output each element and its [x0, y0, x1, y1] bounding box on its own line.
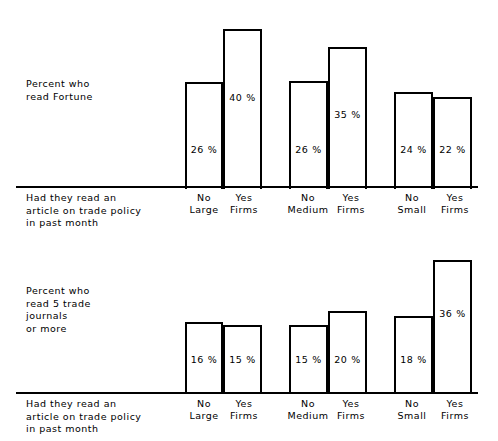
cat-label-top-small-no: No Small: [389, 192, 435, 216]
cat-label-top-small-yes: Yes Firms: [433, 192, 477, 216]
bar-bottom-small-yes: 36 %: [433, 260, 472, 393]
bar-top-large-yes: 40 %: [223, 29, 262, 189]
bar-value-bottom-small-yes: 36 %: [435, 308, 470, 319]
cat-label-bottom-large-no-line1: No: [181, 398, 227, 410]
panel-fortune-readership: Percent who read Fortune 26 % 40 % 26 % …: [0, 0, 498, 232]
cat-label-top-large-no-line1: No: [181, 192, 227, 204]
bar-value-bottom-large-yes: 15 %: [225, 354, 260, 365]
bar-top-small-no: 24 %: [394, 92, 433, 189]
cat-label-bottom-large-no-line2: Large: [181, 410, 227, 422]
plot-area-bottom: 16 % 15 % 15 % 20 % 18 % 36 %: [0, 232, 498, 394]
cat-label-bottom-large-yes: Yes Firms: [222, 398, 266, 422]
x-axis-line-top: [16, 186, 478, 188]
panel-trade-journal-readership: Percent who read 5 trade journals or mor…: [0, 232, 498, 441]
cat-label-bottom-medium-yes-line1: Yes: [329, 398, 373, 410]
cat-label-top-small-yes-line1: Yes: [433, 192, 477, 204]
cat-label-top-large-no-line2: Large: [181, 204, 227, 216]
x-axis-caption-bottom-line-1: Had they read an: [26, 398, 142, 411]
bar-value-top-small-no: 24 %: [396, 144, 431, 155]
bar-bottom-small-no: 18 %: [394, 316, 433, 393]
cat-label-top-medium-yes-line1: Yes: [329, 192, 373, 204]
bar-bottom-medium-yes: 20 %: [328, 311, 367, 393]
cat-label-top-small-yes-line2: Firms: [433, 204, 477, 216]
bar-value-top-large-no: 26 %: [187, 144, 221, 155]
figure-two-panel-bar-charts: Percent who read Fortune 26 % 40 % 26 % …: [0, 0, 498, 441]
cat-label-bottom-medium-no-line1: No: [283, 398, 333, 410]
cat-label-top-large-yes-line2: Firms: [222, 204, 266, 216]
cat-label-top-large-yes: Yes Firms: [222, 192, 266, 216]
bar-bottom-large-no: 16 %: [185, 322, 223, 393]
bar-bottom-large-yes: 15 %: [223, 325, 262, 393]
bar-value-top-small-yes: 22 %: [435, 144, 470, 155]
x-axis-caption-bottom-line-2: article on trade policy: [26, 411, 142, 424]
bar-value-top-medium-yes: 35 %: [330, 109, 365, 120]
cat-label-bottom-small-yes: Yes Firms: [433, 398, 477, 422]
cat-label-bottom-medium-no-line2: Medium: [283, 410, 333, 422]
cat-label-bottom-medium-no: No Medium: [283, 398, 333, 422]
cat-label-top-large-yes-line1: Yes: [222, 192, 266, 204]
cat-label-top-medium-yes-line2: Firms: [329, 204, 373, 216]
bar-bottom-medium-no: 15 %: [289, 325, 328, 393]
cat-label-top-small-no-line2: Small: [389, 204, 435, 216]
bar-value-top-medium-no: 26 %: [291, 144, 326, 155]
bar-top-large-no: 26 %: [185, 82, 223, 189]
bar-top-small-yes: 22 %: [433, 97, 472, 189]
plot-area-top: 26 % 40 % 26 % 35 % 24 % 22 %: [0, 14, 498, 189]
cat-label-top-small-no-line1: No: [389, 192, 435, 204]
cat-label-bottom-medium-yes-line2: Firms: [329, 410, 373, 422]
cat-label-top-medium-yes: Yes Firms: [329, 192, 373, 216]
cat-label-bottom-large-yes-line1: Yes: [222, 398, 266, 410]
bar-top-medium-no: 26 %: [289, 81, 328, 189]
bar-value-top-large-yes: 40 %: [225, 92, 260, 103]
bar-top-medium-yes: 35 %: [328, 47, 367, 189]
cat-label-top-medium-no: No Medium: [283, 192, 333, 216]
bar-value-bottom-medium-no: 15 %: [291, 354, 326, 365]
x-axis-caption-top-line-1: Had they read an: [26, 192, 142, 205]
x-axis-caption-top: Had they read an article on trade policy…: [26, 192, 142, 230]
x-axis-caption-bottom-line-3: in past month: [26, 423, 142, 436]
bar-value-bottom-small-no: 18 %: [396, 354, 431, 365]
cat-label-bottom-large-no: No Large: [181, 398, 227, 422]
cat-label-bottom-large-yes-line2: Firms: [222, 410, 266, 422]
x-axis-caption-top-line-3: in past month: [26, 217, 142, 230]
cat-label-bottom-small-no: No Small: [389, 398, 435, 422]
cat-label-top-medium-no-line2: Medium: [283, 204, 333, 216]
x-axis-caption-bottom: Had they read an article on trade policy…: [26, 398, 142, 436]
bar-value-bottom-large-no: 16 %: [187, 354, 221, 365]
cat-label-top-medium-no-line1: No: [283, 192, 333, 204]
x-axis-line-bottom: [16, 392, 478, 394]
cat-label-bottom-small-no-line1: No: [389, 398, 435, 410]
cat-label-bottom-small-no-line2: Small: [389, 410, 435, 422]
cat-label-bottom-small-yes-line2: Firms: [433, 410, 477, 422]
x-axis-caption-top-line-2: article on trade policy: [26, 205, 142, 218]
cat-label-top-large-no: No Large: [181, 192, 227, 216]
bar-value-bottom-medium-yes: 20 %: [330, 354, 365, 365]
cat-label-bottom-medium-yes: Yes Firms: [329, 398, 373, 422]
cat-label-bottom-small-yes-line1: Yes: [433, 398, 477, 410]
